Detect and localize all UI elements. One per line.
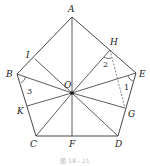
center-point-O [71,92,74,95]
angle-arc-2 [104,57,112,59]
label-B: B [5,69,13,79]
angle-arc-3 [21,77,26,83]
angle-arc-1 [128,76,133,81]
label-C: C [30,139,37,149]
pentagon-diagram: A B C D E O F H I K G 1 2 3 图 18 - 21 [0,0,150,166]
dashed-segment-HG [110,50,125,108]
label-E: E [138,69,146,79]
segment-OH [72,50,110,93]
pentagon-ABCDE [17,17,136,136]
label-I: I [25,50,30,60]
label-A: A [67,4,75,14]
radial-segments [17,17,136,136]
angle-label-2: 2 [103,60,108,69]
label-F: F [68,139,76,149]
label-G: G [128,109,135,119]
angle-label-1: 1 [124,83,129,92]
label-K: K [16,106,25,116]
segment-CO [36,93,72,136]
label-D: D [114,139,122,149]
label-O: O [64,80,72,90]
label-H: H [109,37,118,47]
figure-caption: 图 18 - 21 [60,157,89,165]
segment-OK [27,93,72,106]
angle-label-3: 3 [27,87,32,96]
